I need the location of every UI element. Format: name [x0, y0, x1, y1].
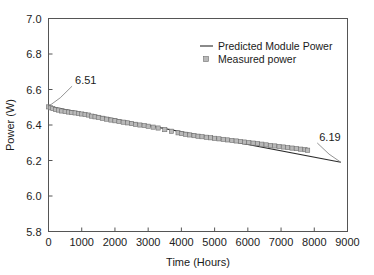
measured-point-marker: [117, 119, 121, 123]
x-tick-label: 7000: [269, 236, 293, 248]
y-axis-ticks: [49, 19, 53, 232]
x-tick-label: 8000: [302, 236, 326, 248]
measured-point-marker: [264, 143, 268, 147]
measured-point-marker: [183, 132, 187, 136]
annotation-label: 6.19: [319, 131, 340, 143]
x-tick-label: 9000: [335, 236, 359, 248]
measured-point-marker: [217, 137, 221, 141]
measured-point-marker: [179, 131, 183, 135]
measured-point-marker: [109, 118, 113, 122]
x-axis-title: Time (Hours): [166, 256, 230, 268]
y-tick-label: 6.0: [26, 190, 41, 202]
measured-point-marker: [96, 115, 100, 119]
annotation-label: 6.51: [75, 74, 96, 86]
measured-point-marker: [196, 134, 200, 138]
measured-point-marker: [286, 145, 290, 149]
measured-point-marker: [146, 124, 150, 128]
legend-label-measured: Measured power: [218, 53, 297, 65]
measured-point-marker: [133, 122, 137, 126]
x-axis-tick-labels: 0100020003000400050006000700080009000: [45, 236, 359, 248]
x-tick-label: 2000: [103, 236, 127, 248]
measured-point-marker: [156, 126, 160, 130]
measured-point-marker: [268, 143, 272, 147]
measured-point-marker: [125, 121, 129, 125]
measured-point-marker: [142, 123, 146, 127]
measured-point-marker: [213, 136, 217, 140]
measured-point-marker: [242, 140, 246, 144]
measured-point-marker: [247, 140, 251, 144]
measured-point-marker: [221, 137, 225, 141]
chart-canvas: 5.86.06.26.46.66.87.0 010002000300040005…: [0, 0, 374, 275]
measured-point-marker: [260, 142, 264, 146]
measured-point-marker: [188, 133, 192, 137]
legend-label-predicted: Predicted Module Power: [218, 40, 333, 52]
measured-point-marker: [238, 139, 242, 143]
measured-point-marker: [299, 147, 303, 151]
legend-square-icon: [204, 57, 209, 62]
y-tick-label: 7.0: [26, 13, 41, 25]
series-measured-power: [46, 105, 309, 153]
measured-point-marker: [113, 119, 117, 123]
measured-point-marker: [281, 145, 285, 149]
y-axis-tick-labels: 5.86.06.26.46.66.87.0: [26, 13, 41, 238]
x-tick-label: 4000: [169, 236, 193, 248]
measured-point-marker: [277, 144, 281, 148]
y-tick-label: 6.8: [26, 48, 41, 60]
measured-point-marker: [192, 134, 196, 138]
power-degradation-chart: 5.86.06.26.46.66.87.0 010002000300040005…: [0, 0, 374, 275]
measured-point-marker: [151, 125, 155, 129]
measured-point-marker: [230, 138, 234, 142]
measured-point-marker: [294, 147, 298, 151]
measured-point-marker: [251, 141, 255, 145]
x-tick-label: 1000: [69, 236, 93, 248]
measured-point-marker: [290, 146, 294, 150]
y-tick-label: 6.4: [26, 119, 41, 131]
measured-point-marker: [163, 128, 167, 132]
measured-point-marker: [204, 135, 208, 139]
measured-point-marker: [306, 148, 310, 152]
y-tick-label: 6.6: [26, 84, 41, 96]
measured-point-marker: [273, 144, 277, 148]
x-axis-ticks: [49, 228, 348, 232]
x-tick-label: 5000: [202, 236, 226, 248]
measured-point-marker: [234, 139, 238, 143]
measured-point-marker: [129, 121, 133, 125]
x-tick-label: 0: [45, 236, 51, 248]
measured-point-marker: [100, 116, 104, 120]
measured-point-marker: [138, 123, 142, 127]
y-tick-label: 6.2: [26, 155, 41, 167]
measured-point-marker: [169, 129, 173, 133]
annotation-leader-line: [317, 143, 341, 162]
x-tick-label: 3000: [136, 236, 160, 248]
measured-point-marker: [255, 142, 259, 146]
measured-point-marker: [200, 135, 204, 139]
y-axis-title: Power (W): [4, 99, 16, 151]
chart-legend: Predicted Module Power Measured power: [200, 40, 333, 65]
measured-point-marker: [209, 136, 213, 140]
x-tick-label: 6000: [236, 236, 260, 248]
measured-point-marker: [105, 117, 109, 121]
y-tick-label: 5.8: [26, 226, 41, 238]
measured-point-marker: [225, 138, 229, 142]
measured-point-marker: [121, 120, 125, 124]
